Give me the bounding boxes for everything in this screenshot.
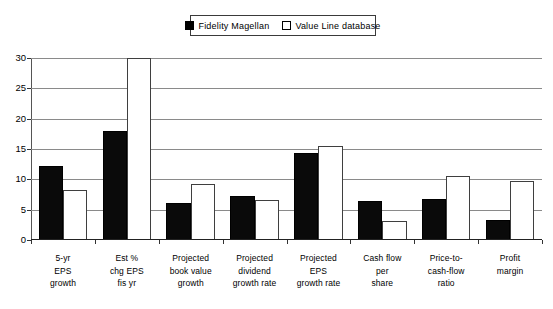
category-label-line: growth (160, 277, 222, 290)
category-label-7: Price-to-cash-flowratio (414, 252, 478, 300)
bar-valueline (63, 190, 87, 240)
y-tick-label-5: 5 (0, 205, 26, 215)
bar-valueline (446, 176, 470, 240)
category-label-line: growth (32, 277, 94, 290)
y-tick-label-30: 30 (0, 53, 26, 63)
legend-swatch-open-square-icon (282, 21, 291, 30)
bar-fidelity (103, 131, 127, 240)
category-label-1: 5-yrEPSgrowth (31, 252, 95, 300)
plot-area (31, 58, 542, 240)
category-label-line: Projected (160, 252, 222, 265)
x-tick-mark (478, 240, 479, 244)
category-label-line: Profit (479, 252, 541, 265)
bar-valueline (127, 58, 151, 240)
category-label-line: Cash flow (351, 252, 413, 265)
bar-valueline (510, 181, 534, 240)
bar-valueline (255, 200, 279, 240)
bar-group (159, 58, 223, 240)
bars-layer (31, 58, 542, 240)
legend-swatch-filled-square-icon (185, 21, 194, 30)
bar-group (350, 58, 414, 240)
x-tick-mark (542, 240, 543, 244)
bar-fidelity (486, 220, 510, 240)
category-label-5: ProjectedEPSgrowth rate (287, 252, 351, 300)
category-label-3: Projectedbook valuegrowth (159, 252, 223, 300)
y-tick-label-20: 20 (0, 114, 26, 124)
category-label-4: Projecteddividendgrowth rate (223, 252, 287, 300)
legend-label-fidelity-magellan: Fidelity Magellan (198, 21, 269, 31)
category-label-line: cash-flow (415, 265, 477, 278)
category-label-line: Projected (288, 252, 350, 265)
bar-fidelity (39, 166, 63, 240)
bar-group (478, 58, 542, 240)
chart-legend: Fidelity Magellan Value Line database (190, 15, 376, 36)
category-label-line: share (351, 277, 413, 290)
bar-group (95, 58, 159, 240)
bar-chart-figure: Fidelity Magellan Value Line database 05… (0, 0, 553, 309)
x-tick-mark (350, 240, 351, 244)
y-tick-label-25: 25 (0, 83, 26, 93)
x-tick-mark (95, 240, 96, 244)
category-label-line: EPS (32, 265, 94, 278)
y-axis-labels: 051015202530 (0, 58, 26, 240)
category-label-line: 5-yr (32, 252, 94, 265)
bar-fidelity (358, 201, 382, 240)
category-label-line: margin (479, 265, 541, 278)
y-tick-label-0: 0 (0, 235, 26, 245)
bar-fidelity (294, 153, 318, 240)
bar-valueline (191, 184, 215, 240)
category-label-line: dividend (224, 265, 286, 278)
x-tick-mark (287, 240, 288, 244)
bar-valueline (382, 221, 406, 240)
legend-entry-fidelity-magellan: Fidelity Magellan (185, 21, 269, 31)
bar-group (414, 58, 478, 240)
category-label-line: Projected (224, 252, 286, 265)
category-label-line: EPS (288, 265, 350, 278)
category-label-line: growth rate (224, 277, 286, 290)
category-label-line: fis yr (96, 277, 158, 290)
category-label-line: growth rate (288, 277, 350, 290)
bar-fidelity (166, 203, 190, 240)
x-axis-category-labels: 5-yrEPSgrowthEst %chg EPSfis yrProjected… (31, 252, 542, 300)
category-label-line: per (351, 265, 413, 278)
category-label-2: Est %chg EPSfis yr (95, 252, 159, 300)
category-label-line: Est % (96, 252, 158, 265)
category-label-line: book value (160, 265, 222, 278)
category-label-line: chg EPS (96, 265, 158, 278)
bar-group (31, 58, 95, 240)
category-label-8: Profitmargin (478, 252, 542, 300)
bar-fidelity (230, 196, 254, 240)
bar-valueline (318, 146, 342, 240)
x-axis-ticks (31, 240, 542, 245)
bar-group (223, 58, 287, 240)
bar-group (287, 58, 351, 240)
x-tick-mark (159, 240, 160, 244)
y-tick-label-10: 10 (0, 174, 26, 184)
bar-fidelity (422, 199, 446, 240)
category-label-line: ratio (415, 277, 477, 290)
category-label-line: Price-to- (415, 252, 477, 265)
legend-entry-value-line-database: Value Line database (282, 21, 380, 31)
category-label-6: Cash flowpershare (350, 252, 414, 300)
legend-label-value-line-database: Value Line database (295, 21, 380, 31)
x-tick-mark (31, 240, 32, 244)
x-tick-mark (414, 240, 415, 244)
x-tick-mark (223, 240, 224, 244)
y-tick-label-15: 15 (0, 144, 26, 154)
